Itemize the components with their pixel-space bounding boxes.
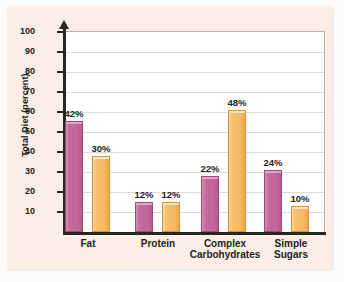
bar-label-simple-sugars-series-2: 10% [285, 194, 315, 204]
y-tick [57, 71, 64, 73]
bar-label-simple-sugars-series-1: 24% [258, 158, 288, 168]
y-tick [57, 51, 64, 53]
category-label-line: Sugars [260, 249, 322, 260]
bar-top-edge [202, 177, 218, 179]
category-label-line: Protein [127, 238, 189, 249]
y-tick [57, 211, 64, 213]
bar-fat-series-2[interactable] [92, 156, 110, 232]
y-tick-label: 70 [9, 87, 35, 96]
bar-protein-series-1[interactable] [135, 202, 153, 232]
category-label-protein: Protein [127, 238, 189, 249]
bar-top-edge [93, 157, 109, 159]
gridline [65, 52, 324, 53]
bar-label-protein-series-1: 12% [129, 190, 159, 200]
category-label-line: Complex [185, 238, 265, 249]
y-tick-label: 40 [9, 147, 35, 156]
figure-container: Total Diet (percent) 100 90 80 70 60 [0, 0, 344, 282]
category-label-fat: Fat [57, 238, 119, 249]
bar-label-fat-series-2: 30% [86, 144, 116, 154]
category-label-complex-carbohydrates: Complex Carbohydrates [185, 238, 265, 260]
y-tick-label: 80 [9, 67, 35, 76]
bar-simple-sugars-series-1[interactable] [264, 170, 282, 232]
gridline [65, 92, 324, 93]
bar-protein-series-2[interactable] [162, 202, 180, 232]
gridline [65, 72, 324, 73]
y-tick [57, 31, 64, 33]
bar-label-protein-series-2: 12% [156, 190, 186, 200]
y-tick-label: 100 [9, 27, 35, 36]
y-tick-label: 50 [9, 127, 35, 136]
category-label-line: Simple [260, 238, 322, 249]
y-tick-label: 20 [9, 187, 35, 196]
bar-top-edge [66, 122, 82, 124]
y-tick-label: 10 [9, 207, 35, 216]
bar-top-edge [163, 203, 179, 205]
gridline [65, 112, 324, 113]
bar-fat-series-1[interactable] [65, 121, 83, 232]
bar-label-complex-carbohydrates-series-1: 22% [195, 164, 225, 174]
y-tick [57, 171, 64, 173]
y-tick [57, 151, 64, 153]
x-axis-line [63, 232, 326, 235]
bar-top-edge [265, 171, 281, 173]
y-tick-label: 90 [9, 47, 35, 56]
chart-panel: Total Diet (percent) 100 90 80 70 60 [7, 6, 332, 269]
y-tick [57, 91, 64, 93]
bar-simple-sugars-series-2[interactable] [291, 206, 309, 232]
bar-top-edge [292, 207, 308, 209]
y-tick [57, 191, 64, 193]
gridline [65, 132, 324, 133]
y-tick [57, 131, 64, 133]
bar-label-fat-series-1: 42% [59, 109, 89, 119]
bar-top-edge [229, 111, 245, 113]
bar-complex-carbohydrates-series-2[interactable] [228, 110, 246, 232]
category-label-line: Carbohydrates [185, 249, 265, 260]
y-tick-label: 60 [9, 107, 35, 116]
y-axis-arrow-icon [59, 20, 69, 29]
y-tick-label: 30 [9, 167, 35, 176]
category-label-line: Fat [57, 238, 119, 249]
bar-complex-carbohydrates-series-1[interactable] [201, 176, 219, 232]
category-label-simple-sugars: Simple Sugars [260, 238, 322, 260]
bar-top-edge [136, 203, 152, 205]
bar-label-complex-carbohydrates-series-2: 48% [222, 98, 252, 108]
